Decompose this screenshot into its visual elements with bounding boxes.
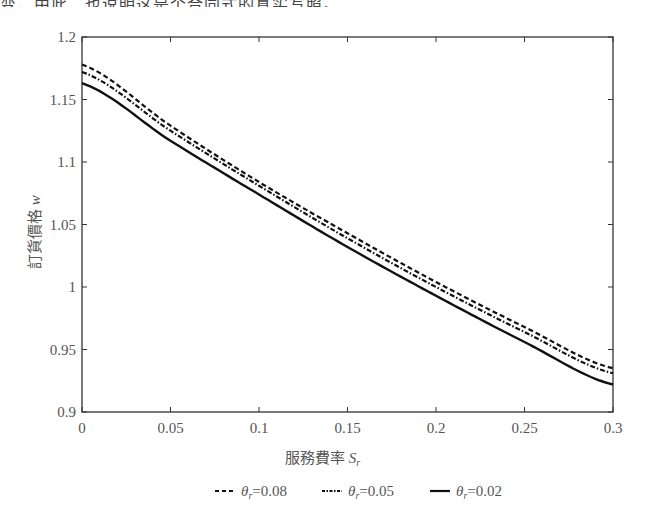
y-tick-label: 1.2 bbox=[57, 29, 76, 45]
data-series bbox=[82, 65, 613, 385]
axis-ticks: 00.050.10.150.20.250.30.90.9511.051.11.1… bbox=[50, 29, 623, 436]
plot-frame bbox=[82, 37, 613, 412]
legend-label: θr=0.08 bbox=[241, 483, 287, 501]
x-tick-label: 0.3 bbox=[604, 420, 623, 436]
legend: θr=0.08θr=0.05θr=0.02 bbox=[215, 483, 502, 501]
line-chart: 00.050.10.150.20.250.30.90.9511.051.11.1… bbox=[0, 0, 654, 523]
series-line bbox=[82, 72, 613, 373]
y-tick-label: 1.15 bbox=[50, 92, 76, 108]
svg-text:服務費率 Sr: 服務費率 Sr bbox=[285, 450, 360, 468]
y-tick-label: 0.9 bbox=[57, 404, 76, 420]
y-tick-label: 0.95 bbox=[50, 342, 76, 358]
y-tick-label: 1.1 bbox=[57, 154, 76, 170]
y-axis-label: 訂貨價格 w bbox=[27, 195, 43, 269]
x-tick-label: 0.2 bbox=[427, 420, 446, 436]
x-tick-label: 0.05 bbox=[157, 420, 183, 436]
x-tick-label: 0.1 bbox=[250, 420, 269, 436]
y-tick-label: 1 bbox=[69, 279, 77, 295]
x-tick-label: 0.25 bbox=[511, 420, 537, 436]
legend-label: θr=0.02 bbox=[456, 483, 502, 501]
y-tick-label: 1.05 bbox=[50, 217, 76, 233]
x-axis-label: 服務費率 Sr bbox=[285, 450, 360, 468]
svg-text:訂貨價格 w: 訂貨價格 w bbox=[27, 195, 43, 269]
x-tick-label: 0 bbox=[78, 420, 86, 436]
legend-label: θr=0.05 bbox=[348, 483, 394, 501]
series-line bbox=[82, 65, 613, 369]
x-tick-label: 0.15 bbox=[334, 420, 360, 436]
